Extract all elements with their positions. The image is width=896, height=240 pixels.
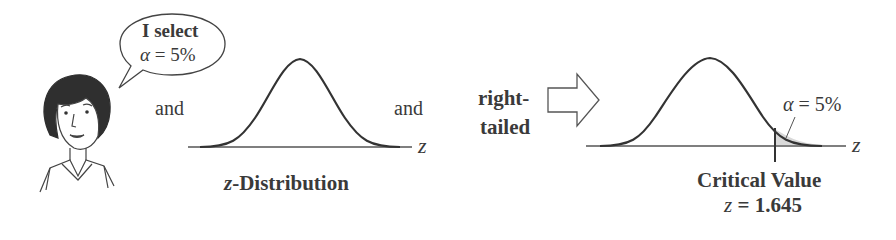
alpha-annotation-value: = 5% — [794, 93, 842, 115]
test-type-line-1: right- — [478, 86, 529, 111]
distribution-caption: z-Distribution — [224, 171, 349, 196]
axis-label-z-right: z — [852, 132, 861, 158]
and-label-1: and — [155, 97, 184, 120]
and-label-2: and — [394, 97, 423, 120]
critical-value-number: z = 1.645 — [724, 193, 802, 218]
critical-var: z — [724, 193, 732, 217]
alpha-symbol: α — [140, 44, 150, 65]
woman-illustration — [40, 75, 114, 192]
critical-value-title: Critical Value — [697, 168, 821, 193]
caption-var: z — [224, 171, 232, 195]
z-distribution-chart — [188, 59, 412, 147]
axis-label-z: z — [418, 133, 427, 159]
caption-rest: -Distribution — [232, 171, 349, 195]
arrow-right-icon — [548, 74, 599, 126]
test-type-line-2: tailed — [480, 115, 530, 140]
alpha-annotation-symbol: α — [783, 93, 794, 115]
critical-rest: = 1.645 — [732, 193, 802, 217]
alpha-value: = 5% — [150, 44, 196, 65]
alpha-pointer — [786, 117, 795, 138]
bubble-line-1: I select — [142, 20, 198, 42]
bubble-line-2: α = 5% — [140, 44, 196, 66]
alpha-annotation: α = 5% — [783, 93, 841, 116]
